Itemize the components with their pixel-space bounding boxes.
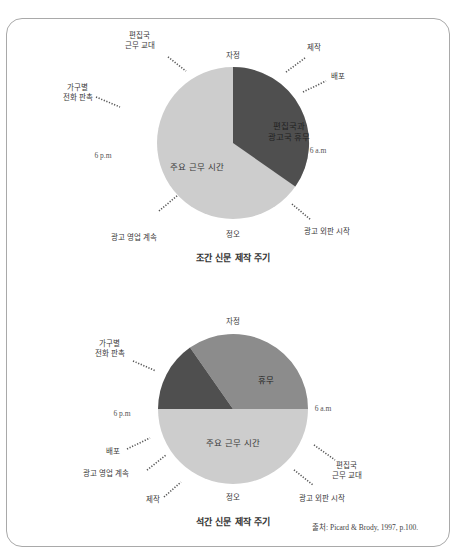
label-line: 편집국	[125, 31, 155, 41]
label-line: 광고국 휴무	[268, 132, 311, 143]
morning-ad-sales-continue-label: 광고 영업 계속	[111, 233, 158, 243]
evening-phone-sales-label: 가구별 전화 판촉	[95, 339, 125, 359]
label-line: 편집국	[332, 461, 362, 471]
evening-midnight-label: 자정	[226, 317, 240, 327]
evening-ad-outside-start-label: 광고 외판 시작	[299, 494, 346, 504]
morning-production-label: 제작	[307, 43, 321, 53]
morning-main-work-label: 주요 근무 시간	[170, 162, 223, 173]
morning-shift-change-label: 편집국 근무 교대	[125, 31, 155, 51]
morning-6pm-label: 6 p.m	[94, 151, 111, 161]
label-line: 가구별	[95, 339, 125, 349]
evening-6pm-label: 6 p.m	[113, 409, 130, 419]
evening-ad-sales-continue-label: 광고 영업 계속	[83, 469, 130, 479]
source-citation: 출처: Picard & Brody, 1997, p.100.	[312, 521, 418, 532]
evening-noon-label: 정오	[226, 493, 240, 503]
morning-phone-sales-label: 가구별 전화 판촉	[63, 83, 93, 103]
evening-shift-change-label: 편집국 근무 교대	[332, 461, 362, 481]
label-line: 편집국과	[268, 121, 311, 132]
morning-ad-outside-start-label: 광고 외판 시작	[304, 227, 351, 237]
morning-noon-label: 정오	[226, 230, 240, 240]
morning-distribution-label: 배포	[331, 72, 345, 82]
evening-production-label: 제작	[146, 495, 160, 505]
morning-rest-slice-label: 편집국과 광고국 휴무	[268, 121, 311, 143]
evening-main-work-label: 주요 근무 시간	[206, 438, 259, 449]
evening-rest-slice-label: 휴무	[258, 375, 274, 386]
label-line: 가구별	[63, 83, 93, 93]
evening-pie	[158, 334, 308, 484]
evening-6am-label: 6 a.m	[315, 404, 332, 414]
label-line: 근무 교대	[125, 41, 155, 51]
label-line: 근무 교대	[332, 471, 362, 481]
morning-midnight-label: 자정	[226, 51, 240, 61]
evening-chart-title: 석간 신문 제작 주기	[196, 517, 269, 527]
label-line: 전화 판촉	[63, 93, 93, 103]
morning-chart-title: 조간 신문 제작 주기	[196, 253, 269, 263]
label-line: 전화 판촉	[95, 349, 125, 359]
morning-pie	[157, 67, 309, 219]
morning-6am-label: 6 a.m	[310, 146, 327, 156]
evening-distribution-label: 배포	[106, 447, 120, 457]
